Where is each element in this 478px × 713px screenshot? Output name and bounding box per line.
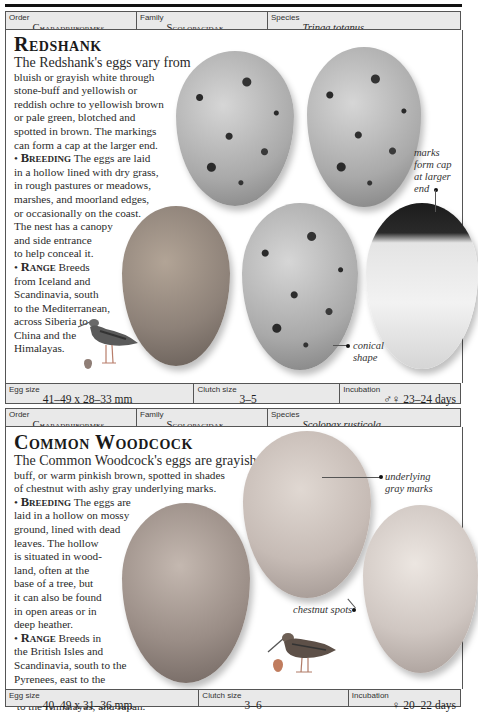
order-cell: OrderCharadriiformes xyxy=(6,409,137,426)
annotation-leader xyxy=(435,190,436,212)
clutch-size-value: 3–5 xyxy=(240,393,257,405)
family-label: Family xyxy=(140,410,164,419)
incubation-value: ♂♀ 23–24 days xyxy=(383,393,456,405)
text-line: marshes, and moorland edges, xyxy=(14,193,191,207)
species-label: Species xyxy=(271,13,299,22)
family-value: Scolopacidae xyxy=(167,419,224,426)
order-label: Order xyxy=(9,410,29,419)
annotation-leader xyxy=(322,477,380,478)
breeding-heading: Breeding xyxy=(21,495,71,509)
annotation-chestnut: chestnut spots xyxy=(293,604,352,616)
clutch-size-label: Clutch size xyxy=(202,691,241,700)
text-line: reddish ochre to yellowish brown xyxy=(14,98,191,112)
text-line: can form a cap at the larger end. xyxy=(14,139,191,153)
incubation-cell: Incubation♂♀ 23–24 days xyxy=(340,384,460,403)
clutch-size-cell: Clutch size3–6 xyxy=(199,690,349,706)
annotation-dot xyxy=(352,608,356,612)
egg-size-cell: Egg size41–49 x 28–33 mm xyxy=(6,384,194,403)
species-label: Species xyxy=(271,410,299,419)
species-cell: SpeciesTringa totanus xyxy=(268,12,460,29)
egg-size-value: 41–49 x 28–33 mm xyxy=(43,393,133,405)
text-line: stone-buff and yellowish or xyxy=(14,84,191,98)
egg-size-label: Egg size xyxy=(9,691,40,700)
annotation-conical: conical shape xyxy=(353,340,384,364)
annotation-underlying: underlying gray marks xyxy=(385,471,433,495)
redshank-stats-bar: Egg size41–49 x 28–33 mm Clutch size3–5 … xyxy=(5,383,461,404)
woodcock-classification-bar: OrderCharadriiformes FamilyScolopacidae … xyxy=(5,408,461,427)
top-rule xyxy=(5,4,462,7)
woodcock-bird-icon xyxy=(266,628,338,684)
order-label: Order xyxy=(9,13,29,22)
egg-size-value: 40–49 x 31–36 mm xyxy=(43,699,133,711)
text-line: Pyrenees, east to the xyxy=(14,673,295,687)
incubation-label: Incubation xyxy=(343,385,380,394)
order-value: Charadriiformes xyxy=(32,22,104,29)
text-line: in rough pastures or meadows, xyxy=(14,179,191,193)
species-value: Tringa totanus xyxy=(302,22,364,29)
annotation-cap: marks form cap at larger end xyxy=(414,147,452,195)
woodcock-title: Common Woodcock xyxy=(14,431,193,454)
redshank-title: Redshank xyxy=(14,33,102,56)
family-cell: FamilyScolopacidae xyxy=(137,409,268,426)
text-line: spotted in brown. The markings xyxy=(14,125,191,139)
species-cell: SpeciesScolopax rusticola xyxy=(268,409,460,426)
redshank-classification-bar: OrderCharadriiformes FamilyScolopacidae … xyxy=(5,11,461,30)
clutch-size-value: 3–6 xyxy=(244,699,261,711)
annotation-dot xyxy=(379,475,383,479)
incubation-label: Incubation xyxy=(352,691,389,700)
text-line: or pale green, blotched and xyxy=(14,111,191,125)
family-value: Scolopacidae xyxy=(167,22,224,29)
range-heading: Range xyxy=(21,631,56,645)
incubation-cell: Incubation♀ 20–22 days xyxy=(349,690,460,706)
text-line: The Redshank's eggs vary from xyxy=(14,56,191,71)
clutch-size-cell: Clutch size3–5 xyxy=(194,384,340,403)
breeding-heading: Breeding xyxy=(21,151,71,165)
text-line: bluish or grayish white through xyxy=(14,71,191,85)
range-heading: Range xyxy=(21,260,56,274)
family-label: Family xyxy=(140,13,164,22)
order-value: Charadriiformes xyxy=(32,419,104,426)
text-line: in a hollow lined with dry grass, xyxy=(14,166,191,180)
incubation-value: ♀ 20–22 days xyxy=(392,699,456,711)
breeding-line: • Breeding The eggs are laid xyxy=(14,152,191,166)
annotation-dot xyxy=(346,344,350,348)
woodcock-stats-bar: Egg size40–49 x 31–36 mm Clutch size3–6 … xyxy=(5,689,461,707)
egg-size-cell: Egg size40–49 x 31–36 mm xyxy=(6,690,199,706)
family-cell: FamilyScolopacidae xyxy=(137,12,268,29)
order-cell: OrderCharadriiformes xyxy=(6,12,137,29)
annotation-leader xyxy=(333,345,347,346)
egg-size-label: Egg size xyxy=(9,385,40,394)
species-value: Scolopax rusticola xyxy=(302,419,380,426)
clutch-size-label: Clutch size xyxy=(197,385,236,394)
